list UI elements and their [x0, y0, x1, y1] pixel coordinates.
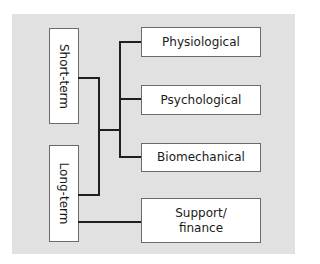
node-psychological: Psychological — [141, 85, 261, 115]
edge-to-psychological — [119, 98, 141, 100]
node-biomechanical-label: Biomechanical — [157, 150, 245, 165]
node-short-term: Short-term — [49, 28, 79, 124]
node-physiological-label: Physiological — [162, 35, 240, 50]
node-support-finance-label-line1: Support/ — [175, 206, 226, 221]
node-long-term-label: Long-term — [57, 163, 72, 225]
edge-long-term-stub — [78, 194, 100, 196]
node-biomechanical: Biomechanical — [141, 143, 261, 172]
node-physiological: Physiological — [141, 27, 261, 57]
edge-short-term-stub — [78, 77, 100, 79]
node-long-term: Long-term — [49, 145, 79, 242]
edge-junction — [98, 129, 121, 131]
edge-to-biomechanical — [119, 156, 141, 158]
node-psychological-label: Psychological — [161, 93, 242, 108]
edge-left-trunk — [98, 77, 100, 196]
node-support-finance: Support/ finance — [141, 198, 261, 243]
edge-to-physiological — [119, 41, 141, 43]
node-support-finance-label-line2: finance — [179, 221, 223, 236]
node-short-term-label: Short-term — [57, 43, 72, 108]
edge-long-term-to-support-finance — [78, 221, 141, 223]
